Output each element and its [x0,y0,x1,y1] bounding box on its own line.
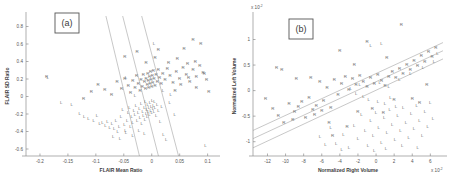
data-marker-r: R [409,67,412,72]
data-marker-r: R [205,77,208,82]
x-tick-label: 2 [393,159,396,164]
data-marker-l: L [357,136,360,141]
y-tick-label: 0 [20,94,23,99]
data-marker-r: R [166,66,169,71]
data-marker-r: R [315,103,318,108]
data-marker-l: L [397,113,400,118]
y-tick-label: 1 [247,37,250,42]
data-marker-r: R [192,67,195,72]
data-marker-r: R [157,67,160,72]
data-marker-r: R [131,78,134,83]
data-marker-l: L [125,130,128,135]
panel-b: LLLLLLLLLLLLLLLLLLLLLLLLLLLLLLLLLLLLLLLL… [227,0,454,190]
data-marker-r: R [344,74,347,79]
data-marker-r: R [138,88,141,93]
data-marker-l: L [424,109,427,114]
data-marker-r: R [127,83,130,88]
data-marker-l: L [121,107,124,112]
data-marker-r: R [347,87,350,92]
data-marker-r: R [195,85,198,90]
data-marker-r: R [423,59,426,64]
data-marker-l: L [394,137,397,142]
data-marker-r: R [199,41,202,46]
data-marker-r: R [116,79,119,84]
data-marker-l: L [116,129,119,134]
data-marker-r: R [183,46,186,51]
data-marker-r: R [282,120,285,125]
data-marker-l: L [432,116,435,121]
panel-tag-label: (b) [296,24,307,34]
data-marker-r: R [382,110,385,115]
data-marker-r: R [45,74,48,79]
data-marker-r: R [411,96,414,101]
data-marker-r: R [304,115,307,120]
data-marker-r: R [387,74,390,79]
data-marker-r: R [336,92,339,97]
y-tick-label: -0.4 [15,129,23,134]
regression-line [253,59,443,148]
x-tick-label: 0 [375,159,378,164]
x-axis-title: FLAIR Mean Ratio [100,167,143,173]
data-marker-r: R [195,74,198,79]
data-marker-r: R [313,112,316,117]
data-marker-r: R [288,101,291,106]
x-tick-label: -12 [264,159,271,164]
data-marker-r: R [400,22,403,27]
data-marker-l: L [71,102,74,107]
data-marker-r: R [264,96,267,101]
data-marker-l: L [112,134,115,139]
data-marker-l: L [78,111,81,116]
data-marker-l: L [395,104,398,109]
data-marker-l: L [380,140,383,145]
data-marker-l: L [155,113,158,118]
data-marker-r: R [322,98,325,103]
data-marker-l: L [83,114,86,119]
data-marker-l: L [60,100,63,105]
data-marker-l: L [373,148,376,153]
data-marker-r: R [331,133,334,138]
data-marker-r: R [277,113,280,118]
data-marker-r: R [164,77,167,82]
data-marker-l: L [418,118,421,123]
data-marker-r: R [186,61,189,66]
data-marker-r: R [275,65,278,70]
data-marker-r: R [207,89,210,94]
data-marker-l: L [132,120,135,125]
data-marker-r: R [293,109,296,114]
data-marker-l: L [367,143,370,148]
data-marker-r: R [295,76,298,81]
data-marker-l: L [436,51,439,56]
y-tick-label: 0.8 [17,24,24,29]
y-tick-label: 0.2 [17,77,24,82]
data-marker-r: R [308,95,311,100]
data-marker-l: L [407,135,410,140]
x-tick-label: -8 [302,159,307,164]
data-marker-r: R [181,65,184,70]
data-marker-r: R [171,80,174,85]
data-marker-l: L [92,118,95,123]
data-marker-r: R [394,75,397,80]
data-marker-r: R [356,109,359,114]
x-tick-label: -0.15 [63,159,74,164]
data-marker-l: L [87,116,90,121]
y-axis-title: Normalized Left Volume [231,57,237,114]
panel-a-plot: LLLLLLLLLLLLLLLLLLLLLLLLLLLLLLLLLLLLLLLL… [0,0,227,190]
data-marker-r: R [110,92,113,97]
data-marker-r: R [129,90,132,95]
data-marker-l: L [360,112,363,117]
data-marker-r: R [402,71,405,76]
data-marker-r: R [194,59,197,64]
y-tick-label: -0.5 [242,114,250,119]
data-marker-l: L [140,121,143,126]
data-marker-r: R [120,86,123,91]
data-marker-l: L [128,105,131,110]
data-marker-r: R [431,54,434,59]
data-marker-l: L [399,128,402,133]
data-marker-r: R [340,81,343,86]
x-tick-label: -2 [356,159,361,164]
y-tick-label: -0.2 [15,112,23,117]
data-marker-r: R [318,79,321,84]
data-marker-l: L [380,41,383,46]
data-marker-r: R [373,81,376,86]
data-marker-l: L [162,88,165,93]
